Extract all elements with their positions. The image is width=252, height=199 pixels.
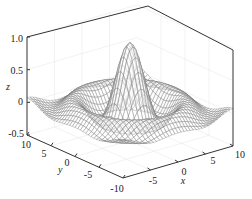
y-tick-label: 0	[65, 157, 70, 168]
y-tick-label: -5	[84, 169, 92, 180]
x-axis-label: x	[180, 175, 186, 186]
surface-plot: 1.0 0.5 0 -0.5 z 10 5 0 -5 -10 y -5 0 5 …	[0, 0, 252, 199]
x-tick-label: 10	[235, 149, 245, 160]
x-tick-label: -5	[149, 175, 157, 186]
z-tick-label: 0.5	[11, 65, 24, 76]
y-tick-label: 5	[42, 148, 47, 159]
z-axis-label: z	[5, 81, 10, 92]
y-axis-label: y	[57, 164, 63, 175]
x-tick-label: 5	[211, 155, 216, 166]
z-tick-label: -0.5	[8, 128, 24, 139]
z-tick-label: 1.0	[11, 33, 24, 44]
y-tick-label: -10	[110, 183, 123, 194]
z-tick-label: 0	[18, 96, 23, 107]
y-tick-label: 10	[21, 139, 31, 150]
